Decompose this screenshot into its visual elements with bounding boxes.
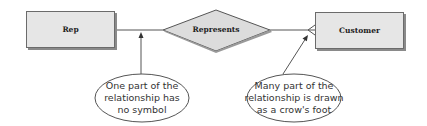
callout-many-side: Many part of the relationship is drawn a…	[244, 80, 344, 116]
arrow-to-one-side	[139, 32, 144, 74]
entity-customer: Customer	[315, 12, 404, 49]
callout-one-side: One part of the relationship has no symb…	[97, 80, 187, 116]
entity-rep-label: Rep	[62, 25, 78, 34]
entity-rep: Rep	[26, 11, 115, 48]
arrow-to-crows-foot	[283, 35, 308, 74]
entity-customer-label: Customer	[339, 26, 380, 35]
er-diagram: Rep Represents Customer One part of the …	[0, 0, 427, 126]
relationship-label: Represents	[180, 25, 252, 34]
